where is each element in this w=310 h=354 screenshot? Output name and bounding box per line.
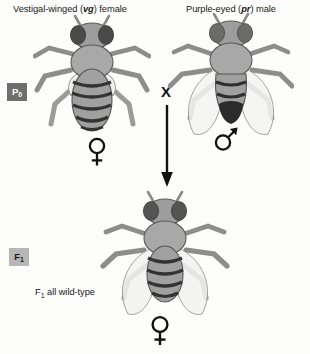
generation-tag-p0: P0 [7,83,27,101]
generation-tag-p0-sub: 0 [18,91,22,98]
generation-tag-f1: F1 [9,248,29,266]
fly-vestigial-winged-female [33,12,151,140]
fly-purple-eyed-male [168,12,294,140]
generation-tag-f1-sub: 1 [20,256,24,263]
genetics-cross-diagram: Vestigal-winged (vg) female Purple-eyed … [0,0,310,354]
f1-note-suffix: all wild-type [44,287,94,297]
f1-wildtype-note: F1 all wild-type [35,287,95,300]
fly-f1-wild-type [100,190,230,320]
female-symbol-icon [86,137,108,167]
